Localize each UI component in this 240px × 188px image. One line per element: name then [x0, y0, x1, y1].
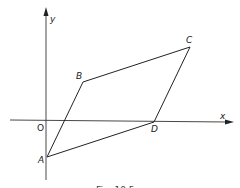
- point-c-label: C: [186, 35, 193, 45]
- point-d-label: D: [151, 124, 158, 134]
- origin-label: O: [37, 123, 44, 133]
- parallelogram-abcd: [47, 47, 190, 157]
- point-a-label: A: [37, 155, 44, 165]
- x-axis: [10, 120, 228, 122]
- figure-caption: Fig. 10.5: [96, 185, 135, 188]
- point-b-label: B: [76, 71, 82, 81]
- x-axis-arrow-icon: [225, 120, 234, 125]
- parallelogram-diagram: y x O A B C D Fig. 10.5: [0, 0, 240, 188]
- y-axis-arrow-icon: [44, 7, 49, 16]
- x-axis-label: x: [219, 111, 226, 121]
- y-axis-label: y: [49, 14, 56, 24]
